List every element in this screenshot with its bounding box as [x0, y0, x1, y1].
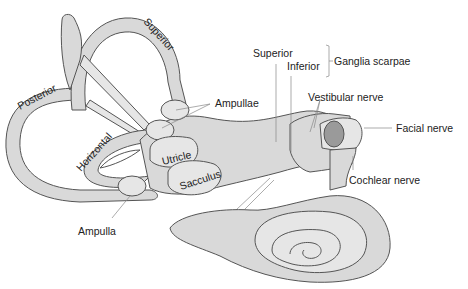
- ductus-reuniens: [236, 178, 270, 210]
- ampulla-superior: [161, 100, 189, 120]
- label-facial-nerve: Facial nerve: [396, 122, 453, 134]
- label-ampullae: Ampullae: [215, 97, 259, 109]
- label-ganglia-scarpae: Ganglia scarpae: [334, 55, 411, 67]
- facial-nerve-cut: [324, 121, 344, 147]
- ampulla-posterior: [118, 176, 146, 196]
- ganglia-bracket: [326, 45, 333, 77]
- label-cochlear-nerve: Cochlear nerve: [349, 174, 420, 186]
- inner-ear-diagram: Superior Posterior Horizontal Ampullae U…: [0, 0, 468, 289]
- label-ganglia-superior: Superior: [253, 47, 293, 59]
- label-vestibular-nerve: Vestibular nerve: [308, 91, 383, 103]
- label-ganglia-inferior: Inferior: [287, 60, 320, 72]
- label-ampulla: Ampulla: [78, 225, 116, 237]
- cochlea-spiral-mid: [272, 230, 340, 266]
- ductus-reuniens-2: [242, 180, 274, 212]
